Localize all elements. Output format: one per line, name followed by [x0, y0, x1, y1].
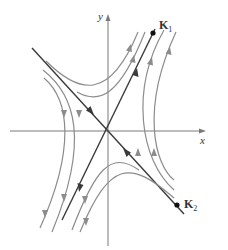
trajectories-right	[135, 30, 176, 190]
arrow-icon	[61, 110, 67, 118]
y-axis-arrow-icon	[106, 14, 111, 21]
arrow-icon	[126, 44, 132, 52]
trajectories-upper	[46, 32, 145, 97]
x-axis-arrow-icon	[199, 129, 206, 134]
arrow-icon	[42, 210, 48, 218]
x-axis-label: x	[199, 134, 205, 146]
y-axis-label: y	[97, 10, 103, 22]
arrow-icon	[151, 148, 157, 156]
arrow-icon	[76, 110, 82, 118]
phase-portrait: x y K1 K2	[0, 0, 228, 250]
arrow-icon	[147, 57, 153, 66]
k1-label: K1	[159, 18, 172, 34]
k2-label: K2	[184, 197, 197, 213]
arrow-icon	[61, 194, 67, 202]
arrow-icon	[135, 148, 141, 156]
axes: x y	[10, 10, 206, 246]
k1-point	[150, 30, 155, 35]
eigenvector-k1: K1	[62, 18, 172, 220]
trajectories-lower	[72, 163, 174, 233]
arrow-down-icon	[78, 183, 84, 192]
trajectories-left	[40, 70, 82, 232]
k2-point	[174, 202, 179, 207]
